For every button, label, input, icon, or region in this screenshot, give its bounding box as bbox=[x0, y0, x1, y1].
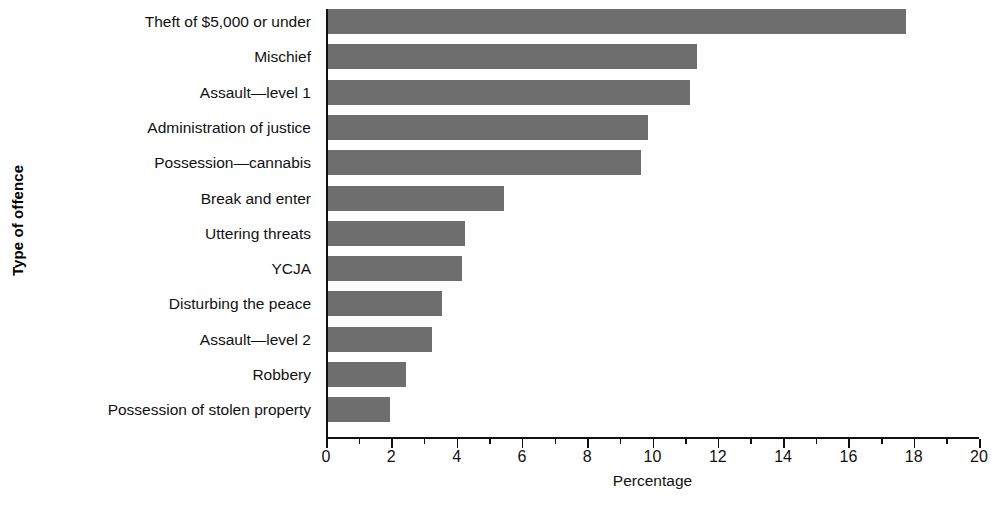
y-axis-tick-label: Administration of justice bbox=[40, 115, 318, 140]
bar-fill bbox=[328, 291, 442, 316]
bar-fill bbox=[328, 256, 462, 281]
bar-fill bbox=[328, 9, 906, 34]
bar-fill bbox=[328, 186, 504, 211]
bar bbox=[328, 397, 390, 422]
x-axis-tick-label: 14 bbox=[774, 448, 792, 466]
x-axis-major-tick bbox=[914, 439, 916, 448]
bar-fill bbox=[328, 115, 648, 140]
y-axis-tick-label: Robbery bbox=[40, 362, 318, 387]
x-axis-minor-tick bbox=[816, 439, 818, 444]
x-axis-minor-tick bbox=[555, 439, 557, 444]
bar-fill bbox=[328, 221, 465, 246]
y-axis-tick-label: Possession of stolen property bbox=[40, 397, 318, 422]
x-axis-tick-label: 12 bbox=[709, 448, 727, 466]
x-axis-minor-tick bbox=[685, 439, 687, 444]
bar bbox=[328, 44, 697, 69]
x-axis-minor-tick bbox=[424, 439, 426, 444]
x-axis-tick-label: 18 bbox=[905, 448, 923, 466]
x-axis-tick-label: 8 bbox=[583, 448, 592, 466]
x-axis-title: Percentage bbox=[326, 472, 979, 490]
bar bbox=[328, 362, 406, 387]
y-axis-tick-label: Mischief bbox=[40, 44, 318, 69]
y-axis-tick-label: Break and enter bbox=[40, 186, 318, 211]
x-axis-minor-tick bbox=[881, 439, 883, 444]
x-axis-tick-label: 4 bbox=[452, 448, 461, 466]
bar bbox=[328, 115, 648, 140]
x-axis-tick-labels: 02468101214161820 bbox=[326, 448, 979, 470]
x-axis-tick-label: 2 bbox=[387, 448, 396, 466]
y-axis-title-text: Type of offence bbox=[10, 164, 27, 275]
x-axis-tick-label: 0 bbox=[322, 448, 331, 466]
x-axis-tick-label: 6 bbox=[517, 448, 526, 466]
y-axis-tick-label: Uttering threats bbox=[40, 221, 318, 246]
plot-area bbox=[326, 9, 979, 437]
x-axis-major-tick bbox=[457, 439, 459, 448]
bar bbox=[328, 221, 465, 246]
x-axis-minor-tick bbox=[750, 439, 752, 444]
bar-chart: Type of offence Theft of $5,000 or under… bbox=[0, 0, 999, 516]
bar-fill bbox=[328, 362, 406, 387]
bar-fill bbox=[328, 150, 641, 175]
x-axis-major-tick bbox=[979, 439, 981, 448]
bar-fill bbox=[328, 80, 690, 105]
bar bbox=[328, 256, 462, 281]
y-axis-tick-label: Disturbing the peace bbox=[40, 291, 318, 316]
y-axis-tick-label: Theft of $5,000 or under bbox=[40, 9, 318, 34]
x-axis-major-tick bbox=[326, 439, 328, 448]
x-axis-major-tick bbox=[391, 439, 393, 448]
y-axis-tick-label: Assault—level 2 bbox=[40, 327, 318, 352]
bar bbox=[328, 327, 432, 352]
x-axis-major-tick bbox=[718, 439, 720, 448]
bar bbox=[328, 80, 690, 105]
x-axis-minor-tick bbox=[946, 439, 948, 444]
x-axis-major-tick bbox=[522, 439, 524, 448]
bar bbox=[328, 186, 504, 211]
bar bbox=[328, 150, 641, 175]
bar bbox=[328, 9, 906, 34]
x-axis-tick-label: 20 bbox=[970, 448, 988, 466]
bar-fill bbox=[328, 44, 697, 69]
x-axis-tick-label: 16 bbox=[839, 448, 857, 466]
bar bbox=[328, 291, 442, 316]
x-axis-minor-tick bbox=[489, 439, 491, 444]
x-axis-major-tick bbox=[848, 439, 850, 448]
bar-fill bbox=[328, 397, 390, 422]
y-axis-tick-labels: Theft of $5,000 or underMischiefAssault—… bbox=[40, 9, 318, 434]
y-axis-tick-label: YCJA bbox=[40, 256, 318, 281]
x-axis-major-tick bbox=[653, 439, 655, 448]
x-axis-minor-tick bbox=[359, 439, 361, 444]
x-axis-major-tick bbox=[587, 439, 589, 448]
x-axis-tick-label: 10 bbox=[644, 448, 662, 466]
x-axis-minor-tick bbox=[620, 439, 622, 444]
x-axis-major-tick bbox=[783, 439, 785, 448]
y-axis-tick-label: Possession—cannabis bbox=[40, 150, 318, 175]
y-axis-tick-label: Assault—level 1 bbox=[40, 80, 318, 105]
y-axis-title: Type of offence bbox=[0, 0, 36, 440]
bar-fill bbox=[328, 327, 432, 352]
